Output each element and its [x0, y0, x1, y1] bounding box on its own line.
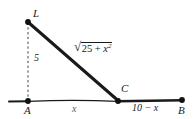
segment-L-to-C — [29, 23, 119, 101]
point-label-B: B — [178, 105, 185, 116]
length-label-segment-CB: 10 − x — [132, 103, 158, 113]
segment-A-to-C — [28, 100, 118, 101]
radicand-exponent: 2 — [108, 42, 112, 50]
length-label-height: 5 — [34, 53, 39, 63]
point-label-C: C — [121, 83, 128, 94]
point-label-A: A — [24, 105, 31, 116]
vertex-dot-B — [179, 97, 185, 103]
vertex-dot-C — [115, 98, 121, 104]
diagram-canvas — [0, 0, 196, 119]
length-label-hypotenuse: √ 25 + x2 — [74, 42, 112, 55]
vertex-dot-L — [25, 19, 31, 25]
radicand-constant-term: 25 + — [82, 43, 104, 54]
geometry-diagram: L A C B 5 x 10 − x √ 25 + x2 — [0, 0, 196, 119]
point-label-L: L — [33, 8, 39, 19]
length-label-segment-AC: x — [72, 104, 76, 114]
radicand: 25 + x2 — [81, 42, 113, 55]
